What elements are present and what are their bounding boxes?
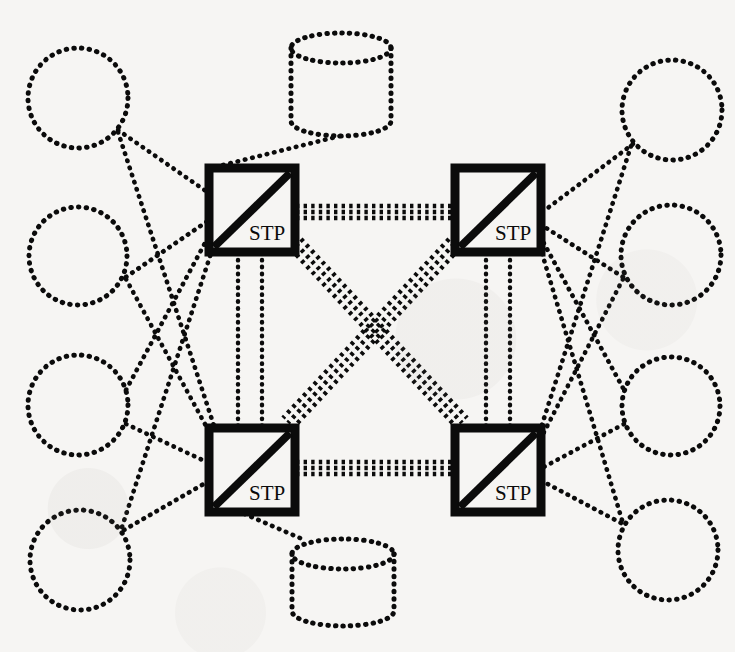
database-bottom[interactable] bbox=[292, 539, 394, 626]
database-bottom-cap bbox=[292, 539, 394, 569]
link-top-horizontal bbox=[296, 206, 455, 218]
stp-label: STP bbox=[495, 221, 531, 245]
link-left-vertical bbox=[238, 253, 262, 428]
link-bottom-horizontal bbox=[296, 462, 455, 474]
access-link bbox=[541, 250, 622, 520]
circle-left-1[interactable] bbox=[28, 48, 128, 148]
access-link bbox=[542, 424, 624, 468]
database-top[interactable] bbox=[291, 33, 391, 136]
circle-left-3[interactable] bbox=[28, 355, 128, 455]
stp-top-left[interactable]: STP bbox=[209, 168, 295, 252]
circle-right-2[interactable] bbox=[621, 205, 721, 305]
access-link bbox=[126, 218, 212, 277]
trunk-strand bbox=[288, 244, 454, 423]
trunk-strand bbox=[293, 249, 459, 428]
database-top-cap bbox=[291, 33, 391, 63]
stp-label: STP bbox=[495, 481, 531, 505]
stp-bottom-right[interactable]: STP bbox=[455, 428, 541, 512]
circle-left-2[interactable] bbox=[29, 207, 127, 305]
access-link bbox=[541, 238, 623, 388]
circle-right-4[interactable] bbox=[618, 500, 718, 600]
network-diagram-canvas: STP STP STP STP bbox=[0, 0, 735, 652]
access-link bbox=[543, 226, 623, 277]
stp-label: STP bbox=[249, 221, 285, 245]
network-diagram: STP STP STP STP bbox=[0, 0, 735, 652]
access-link bbox=[118, 130, 213, 196]
access-link bbox=[542, 481, 621, 523]
link-right-vertical bbox=[486, 253, 510, 428]
stp-label: STP bbox=[249, 481, 285, 505]
circle-right-1[interactable] bbox=[622, 60, 722, 160]
access-link bbox=[545, 144, 633, 210]
database-link-top bbox=[211, 136, 340, 168]
stp-bottom-left[interactable]: STP bbox=[209, 428, 295, 512]
trunk-strand bbox=[291, 249, 457, 428]
circle-right-3[interactable] bbox=[622, 357, 720, 455]
access-link bbox=[126, 230, 212, 390]
circle-left-4[interactable] bbox=[30, 510, 130, 610]
trunk-strand bbox=[296, 244, 462, 423]
access-link bbox=[126, 279, 212, 437]
access-link bbox=[126, 424, 213, 465]
stp-top-right[interactable]: STP bbox=[455, 168, 541, 252]
